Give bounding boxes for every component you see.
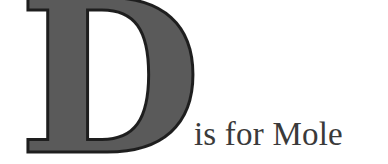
- drop-cap-letter: D: [18, 0, 202, 164]
- title-rest-text: is for Mole: [194, 118, 343, 151]
